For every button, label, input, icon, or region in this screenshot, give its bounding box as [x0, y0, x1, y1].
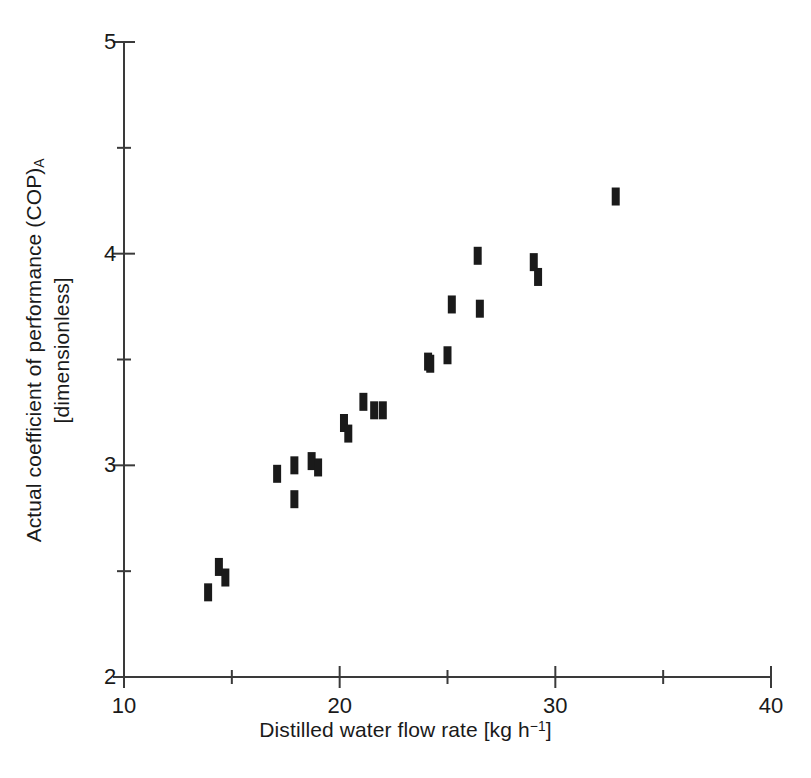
data-point-marker [474, 247, 482, 265]
x-tick-label: 40 [759, 693, 783, 719]
data-point-marker [204, 583, 212, 601]
data-point-marker [534, 268, 542, 286]
data-point-marker [379, 401, 387, 419]
x-tick-label: 30 [543, 693, 567, 719]
plot-area [0, 0, 811, 778]
x-tick-label: 10 [112, 693, 136, 719]
data-point-marker [273, 465, 281, 483]
data-point-marker [344, 425, 352, 443]
scatter-plot-figure: Actual coefficient of performance (COP)A… [0, 0, 811, 778]
data-point-marker [444, 346, 452, 364]
data-point-marker [370, 401, 378, 419]
data-point-marker [426, 355, 434, 373]
x-tick-label: 20 [327, 693, 351, 719]
data-point-marker [612, 188, 620, 206]
data-point-marker [448, 295, 456, 313]
data-point-marker [314, 458, 322, 476]
data-point-marker [290, 456, 298, 474]
data-points [204, 188, 620, 602]
data-point-marker [359, 393, 367, 411]
data-point-marker [476, 300, 484, 318]
data-point-marker [221, 569, 229, 587]
data-point-marker [290, 490, 298, 508]
